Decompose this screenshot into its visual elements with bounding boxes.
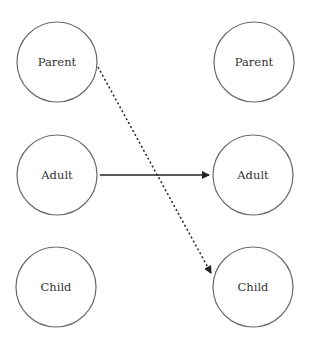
node-right-adult: Adult bbox=[213, 135, 293, 215]
node-right-child: Child bbox=[213, 247, 293, 327]
node-label: Child bbox=[41, 280, 73, 294]
transaction-diagram: Parent Adult Child Parent Adult Child bbox=[0, 0, 309, 344]
dotted-arrow-parent-to-child bbox=[98, 67, 211, 273]
node-left-parent: Parent bbox=[17, 22, 97, 102]
node-left-child: Child bbox=[16, 247, 96, 327]
node-label: Adult bbox=[40, 168, 73, 182]
node-left-adult: Adult bbox=[17, 135, 97, 215]
node-label: Adult bbox=[236, 168, 269, 182]
node-label: Parent bbox=[38, 55, 77, 69]
node-label: Parent bbox=[235, 55, 274, 69]
node-right-parent: Parent bbox=[214, 22, 294, 102]
node-label: Child bbox=[238, 280, 270, 294]
